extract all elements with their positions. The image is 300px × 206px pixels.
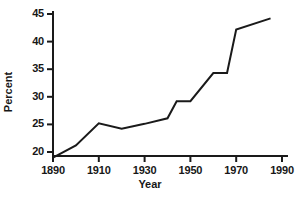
y-tick-label: 25 <box>0 117 44 129</box>
data-series-line <box>53 18 271 157</box>
line-chart: Percent 202530354045 1890191019301950197… <box>0 0 300 206</box>
y-tick-label: 20 <box>0 145 44 157</box>
x-tick-label: 1910 <box>79 164 119 176</box>
x-tick-label: 1970 <box>216 164 256 176</box>
y-tick-label: 35 <box>0 62 44 74</box>
x-tick-label: 1930 <box>125 164 165 176</box>
y-tick-label: 30 <box>0 90 44 102</box>
x-axis-title: Year <box>0 178 300 190</box>
y-tick-label: 45 <box>0 7 44 19</box>
x-tick-label: 1950 <box>170 164 210 176</box>
x-tick-label: 1890 <box>33 164 73 176</box>
x-tick-label: 1990 <box>262 164 300 176</box>
y-tick-label: 40 <box>0 35 44 47</box>
caption-fragment <box>0 198 300 206</box>
